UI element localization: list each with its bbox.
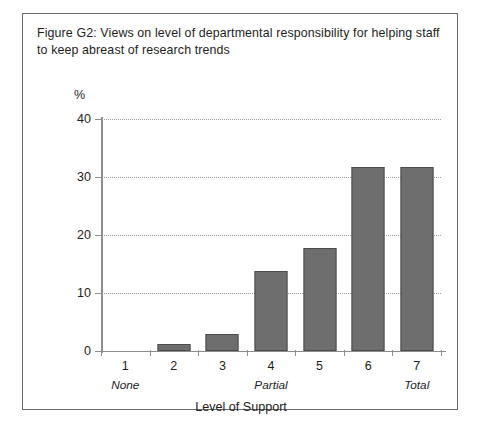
x-sub-label-total: Total [404, 378, 429, 392]
bar-6 [352, 167, 385, 351]
x-tick-label: 4 [268, 359, 275, 373]
bar-7 [400, 167, 433, 351]
x-tick-mark [150, 350, 151, 356]
bar-slot [101, 119, 150, 351]
y-tick-label: 30 [77, 170, 91, 184]
bars-layer [101, 119, 441, 351]
bar-3 [206, 334, 239, 351]
x-tick-mark [344, 350, 345, 356]
y-tick-label: 40 [77, 112, 91, 126]
x-tick-label: 5 [316, 359, 323, 373]
y-tick-label: 10 [77, 286, 91, 300]
x-tick-label: 2 [170, 359, 177, 373]
figure-root: Figure G2: Views on level of departmenta… [0, 0, 481, 427]
y-tick-label: 0 [84, 344, 91, 358]
y-tick-label: 20 [77, 228, 91, 242]
bar-2 [157, 344, 190, 351]
figure-title: Figure G2: Views on level of departmenta… [37, 25, 445, 59]
bar-4 [254, 271, 287, 351]
x-tick-mark [392, 350, 393, 356]
bar-slot [392, 119, 441, 351]
plot-area: 010203040 [101, 119, 441, 351]
x-tick-label: 6 [365, 359, 372, 373]
x-tick-mark [198, 350, 199, 356]
x-tick-label: 1 [122, 359, 129, 373]
bar-slot [247, 119, 296, 351]
bar-5 [303, 248, 336, 351]
x-tick-label: 3 [219, 359, 226, 373]
x-tick-mark [247, 350, 248, 356]
x-axis-title: Level of Support [23, 400, 459, 414]
bar-slot [150, 119, 199, 351]
x-tick-mark [295, 350, 296, 356]
bar-slot [295, 119, 344, 351]
x-sub-label-none: None [111, 378, 139, 392]
x-tick-mark [101, 350, 102, 356]
bar-slot [344, 119, 393, 351]
x-tick-mark [441, 350, 442, 356]
x-sub-label-partial: Partial [254, 378, 287, 392]
figure-frame: Figure G2: Views on level of departmenta… [22, 13, 458, 410]
x-tick-label: 7 [413, 359, 420, 373]
y-axis-unit-label: % [74, 88, 85, 102]
bar-slot [198, 119, 247, 351]
